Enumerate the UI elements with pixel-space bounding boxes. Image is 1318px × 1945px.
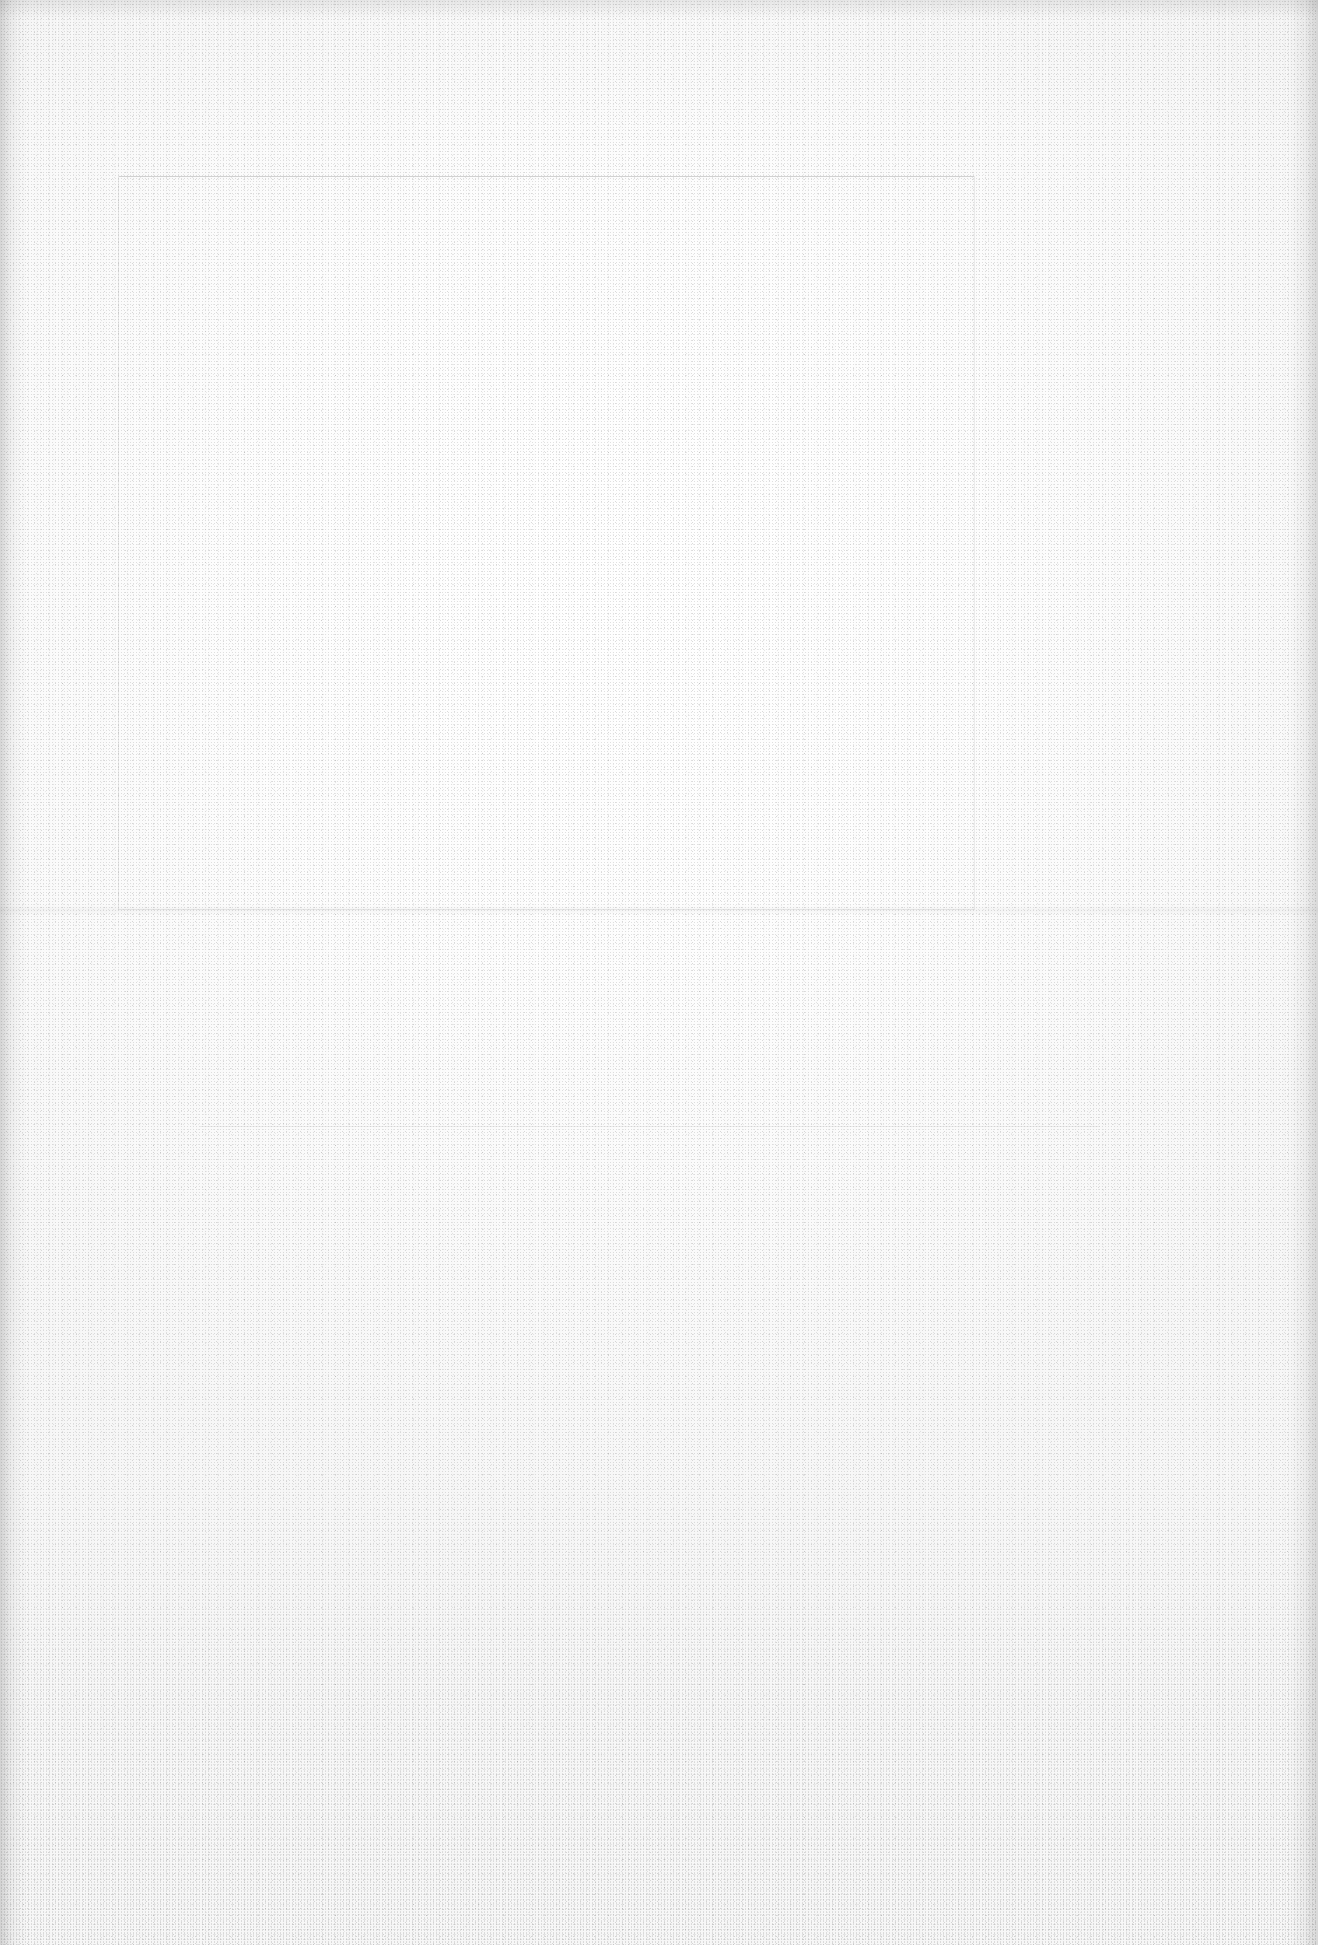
scanner-streaks-top [0, 0, 1318, 150]
ghost-horizontal-rule [200, 1126, 1100, 1127]
ghost-frame [118, 176, 975, 910]
ghost-frame-top-edge [119, 176, 974, 177]
scan-edge-grain-bottom [0, 1475, 1318, 1945]
scan-edge-shadow-top [0, 0, 1318, 18]
scanned-page [0, 0, 1318, 1945]
paper-crease [0, 905, 1318, 915]
